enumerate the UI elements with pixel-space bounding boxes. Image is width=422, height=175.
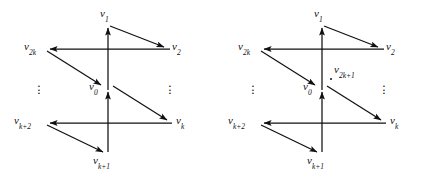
edge-v1-to-v2 xyxy=(110,26,164,47)
vertex-label-v0: v0 xyxy=(89,81,98,92)
vertex-label-v0: v0 xyxy=(303,81,312,92)
edge-vk2-to-vk1 xyxy=(261,125,317,152)
ellipsis-left: ··· xyxy=(248,84,258,95)
digraph-left-panel: v1 v2 v2k v0 vk vk+2 vk+1 ··· ··· xyxy=(0,0,211,175)
figure-container: v1 v2 v2k v0 vk vk+2 vk+1 ··· ··· xyxy=(0,0,422,175)
vertex-label-v1: v1 xyxy=(100,8,109,19)
vertex-label-vk: vk xyxy=(390,115,398,126)
vertex-label-v2: v2 xyxy=(172,41,181,52)
ellipsis-right: ··· xyxy=(379,84,389,95)
edge-v0-to-vk xyxy=(113,86,167,120)
vertex-label-vk1: vk+1 xyxy=(93,155,110,166)
edge-v1-to-v2 xyxy=(324,26,378,47)
vertex-label-v2k: v2k xyxy=(24,41,36,52)
vertex-label-vk2: vk+2 xyxy=(14,115,31,126)
edge-vk2-to-vk1 xyxy=(47,125,103,152)
vertex-label-v1: v1 xyxy=(314,8,323,19)
vertex-label-vk1: vk+1 xyxy=(307,155,324,166)
vertex-label-vk2: vk+2 xyxy=(228,115,245,126)
vertex-label-vk: vk xyxy=(176,115,184,126)
digraph-right-svg xyxy=(211,0,422,175)
vertex-label-v2k: v2k xyxy=(238,41,250,52)
digraph-left-svg xyxy=(0,0,211,175)
edge-v0-to-vk xyxy=(327,86,381,120)
vertex-label-v2k1: v2k+1 xyxy=(334,64,355,75)
vertex-label-v2: v2 xyxy=(386,41,395,52)
digraph-right-panel: v1 v2 v2k v0 v2k+1 vk vk+2 vk+1 ··· ··· xyxy=(211,0,422,175)
ellipsis-left: ··· xyxy=(34,84,44,95)
ellipsis-right: ··· xyxy=(165,84,175,95)
